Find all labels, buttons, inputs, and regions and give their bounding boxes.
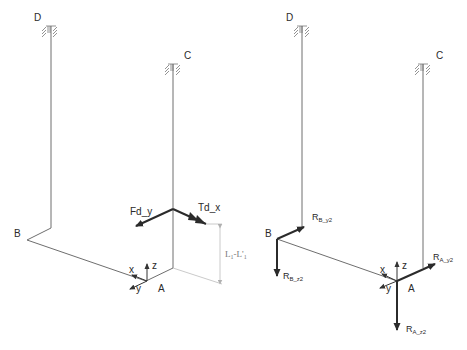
- reaction-label-rb-z2: RB_z2: [283, 272, 303, 282]
- left-diagram: [27, 26, 222, 289]
- axis-label-y: y: [386, 284, 391, 294]
- reaction-label-ra-y2: RA_y2: [433, 253, 453, 263]
- reaction-sub: B_z2: [290, 276, 304, 282]
- axis-label-z: z: [152, 261, 157, 271]
- dimension-sep: -L': [234, 249, 244, 259]
- axis-label-y: y: [136, 284, 141, 294]
- frame-members: [27, 26, 173, 281]
- dimension-lines: [173, 224, 222, 284]
- node-label-a: A: [158, 284, 165, 294]
- reaction-sub: A_z2: [413, 329, 427, 335]
- structural-diagram: [0, 0, 467, 350]
- force-label-fd-y: Fd_y: [130, 207, 152, 217]
- reaction-sub: A_y2: [440, 257, 454, 263]
- axis-label-x: x: [380, 265, 385, 275]
- node-label-a: A: [408, 284, 415, 294]
- reaction-label-rb-y2: RB_y2: [312, 213, 332, 223]
- reaction-arrow-rb-y2: [277, 227, 304, 239]
- frame-members: [277, 26, 423, 281]
- reaction-label-ra-z2: RA_z2: [406, 325, 426, 335]
- reaction-sub: B_y2: [319, 217, 333, 223]
- dimension-sub2: 1: [244, 254, 247, 260]
- node-label-d: D: [286, 13, 293, 23]
- torque-label-td-x: Td_x: [198, 203, 220, 213]
- node-label-c: C: [184, 51, 191, 61]
- node-label-d: D: [34, 13, 41, 23]
- node-label-b: B: [14, 229, 21, 239]
- axis-label-x: x: [129, 265, 134, 275]
- axis-label-z: z: [402, 261, 407, 271]
- dimension-label: L1-L'1: [225, 250, 247, 260]
- node-label-b: B: [265, 229, 272, 239]
- fixed-support-d-icon: [42, 26, 57, 37]
- node-label-c: C: [436, 51, 443, 61]
